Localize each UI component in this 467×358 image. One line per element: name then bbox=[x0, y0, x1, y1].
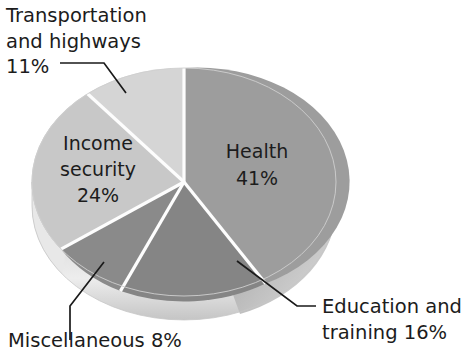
label-education-line2: training 16% bbox=[322, 321, 447, 344]
label-income-security-value: 24% bbox=[77, 184, 119, 206]
label-transportation-line1: Transportation bbox=[5, 4, 147, 27]
label-income-security-line2: security bbox=[60, 158, 136, 180]
label-transportation-line2: and highways bbox=[6, 30, 141, 53]
label-health-value: 41% bbox=[236, 167, 278, 189]
label-miscellaneous: Miscellaneous 8% bbox=[8, 329, 182, 352]
label-transportation-value: 11% bbox=[6, 55, 49, 78]
label-education-line1: Education and bbox=[322, 295, 462, 318]
label-health-line1: Health bbox=[226, 140, 288, 162]
pie-chart-canvas: Transportation and highways 11% Income s… bbox=[0, 0, 467, 358]
pie-chart-figure: Transportation and highways 11% Income s… bbox=[0, 0, 467, 358]
label-income-security-line1: Income bbox=[63, 132, 133, 154]
